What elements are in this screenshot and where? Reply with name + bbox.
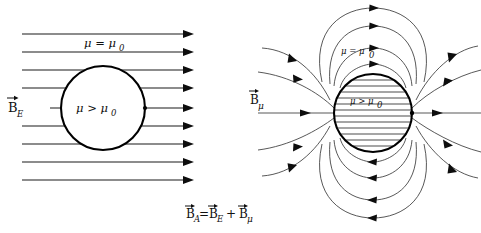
left-outside-medium-label: μ = μ 0 [84, 36, 125, 53]
outgoing-arrowhead-3 [443, 140, 453, 149]
equation-term2-subscript: μ [247, 214, 253, 224]
incoming-arrowhead-axis [300, 110, 311, 117]
right-field-label: B μ [249, 89, 264, 111]
upper-loop-arrowhead-1 [369, 61, 379, 68]
left-field-label-subscript: E [16, 109, 24, 119]
right-inside-medium-text: μ > μ [350, 96, 374, 106]
lower-loop-arrowhead-4 [367, 215, 377, 222]
left-outside-medium-text: μ = μ [84, 36, 116, 50]
upper-loop-arrowhead-4 [369, 5, 379, 12]
left-inside-medium-text: μ > μ [76, 101, 108, 115]
lower-loop-arrowhead-3 [367, 197, 377, 204]
incoming-arrowhead-1 [293, 75, 303, 83]
left-sphere-pole-dot [143, 106, 147, 110]
right-lower-dipole-loops [320, 138, 427, 222]
outgoing-arrowhead-axis [432, 110, 443, 117]
lower-loop-arrowhead-2 [367, 175, 377, 182]
right-sphere-pole-dot [410, 111, 414, 115]
outgoing-arrowhead-2 [448, 53, 458, 63]
left-inside-medium-label: μ > μ 0 [76, 101, 117, 118]
outgoing-arrowhead-1 [443, 78, 453, 87]
left-panel: B E μ = μ 0 μ > μ 0 [7, 30, 194, 184]
left-field-label: B E [7, 96, 24, 119]
superposition-equation: B A = B E + B μ [185, 204, 253, 224]
left-field-arrowheads [183, 30, 194, 184]
left-outside-medium-subscript: 0 [119, 43, 125, 53]
figure-canvas: B E μ = μ 0 μ > μ 0 [0, 0, 481, 233]
incoming-arrowhead-2 [288, 54, 298, 63]
right-outside-medium-subscript: 0 [369, 50, 375, 60]
right-upper-dipole-loops [320, 5, 427, 89]
outgoing-arrowhead-4 [448, 164, 458, 174]
right-inside-medium-subscript: 0 [377, 100, 383, 110]
right-incoming-field-lines [258, 48, 334, 176]
right-outside-medium-text: μ = μ [341, 46, 365, 56]
right-field-label-subscript: μ [258, 101, 264, 111]
left-inside-medium-subscript: 0 [111, 108, 117, 118]
right-outgoing-field-lines [412, 46, 481, 178]
upper-loop-arrowhead-3 [369, 23, 379, 30]
equation-equals: = [199, 207, 209, 221]
right-panel: B μ μ = μ 0 μ > μ 0 [249, 5, 481, 222]
physics-figure: B E μ = μ 0 μ > μ 0 [0, 0, 481, 233]
incoming-arrowhead-3 [293, 143, 303, 151]
equation-plus: + [226, 207, 236, 221]
equation-term1-subscript: E [216, 214, 224, 224]
lower-loop-arrowhead-1 [367, 159, 377, 166]
